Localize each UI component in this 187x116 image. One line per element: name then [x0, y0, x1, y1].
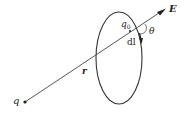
radius-label: r: [82, 67, 87, 76]
angle-arc: [141, 24, 147, 34]
gauss-law-diagram: [0, 0, 187, 116]
field-arrowhead-icon: [157, 9, 166, 16]
angle-label: θ: [149, 27, 154, 36]
test-charge-label: q0: [121, 20, 131, 30]
test-charge-subscript: 0: [127, 23, 131, 30]
line-element-label: dl: [127, 38, 136, 47]
closed-loop: [96, 12, 142, 104]
field-label: E: [169, 4, 177, 14]
test-charge-dot: [129, 30, 131, 32]
charge-label: q: [13, 96, 19, 106]
charge-dot: [23, 100, 26, 103]
